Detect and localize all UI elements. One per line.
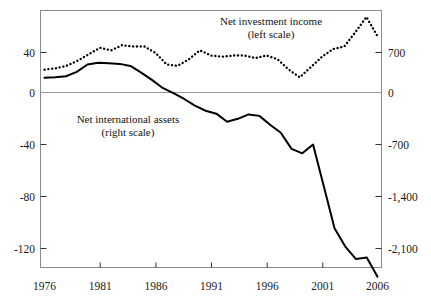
- chart-svg: 40 0 -40 -80 -120 700 0 -700 -1,400 -2,1…: [0, 0, 431, 303]
- annot-net-investment-income: Net investment income (left scale): [220, 15, 322, 41]
- annot-income-line2: (left scale): [248, 28, 295, 41]
- annot-assets-line2: (right scale): [102, 126, 155, 139]
- right-axis-labels: 700 0 -700 -1,400 -2,100: [388, 47, 418, 256]
- x-tick-label: 1991: [200, 280, 223, 292]
- x-tick-label: 2001: [311, 280, 334, 292]
- annot-net-international-assets: Net international assets (right scale): [77, 113, 180, 139]
- right-tick-label: -700: [388, 139, 409, 151]
- x-tick-label: 1996: [256, 280, 279, 292]
- left-tick-label: -40: [20, 139, 36, 151]
- left-tick-label: 40: [24, 47, 36, 59]
- x-axis-labels: 1976 1981 1986 1991 1996 2001 2006: [33, 280, 389, 292]
- right-axis-ticks: [376, 53, 382, 249]
- left-axis-ticks: [41, 53, 47, 249]
- right-tick-label: -1,400: [388, 191, 418, 204]
- annot-income-line1: Net investment income: [220, 15, 322, 27]
- annot-assets-line1: Net international assets: [77, 113, 180, 125]
- left-tick-label: -120: [14, 243, 35, 255]
- x-axis-ticks: [100, 263, 323, 268]
- x-tick-label: 1986: [144, 280, 167, 292]
- left-tick-label: 0: [29, 87, 35, 99]
- series-net-international-assets: [45, 63, 378, 277]
- plot-frame: [41, 11, 382, 268]
- left-axis-labels: 40 0 -40 -80 -120: [14, 47, 35, 255]
- x-tick-label: 2006: [366, 280, 389, 292]
- left-tick-label: -80: [20, 191, 36, 203]
- chart-figure: 40 0 -40 -80 -120 700 0 -700 -1,400 -2,1…: [0, 0, 431, 303]
- right-tick-label: 700: [388, 47, 406, 59]
- right-tick-label: 0: [388, 87, 394, 99]
- x-tick-label: 1981: [89, 280, 112, 292]
- right-tick-label: -2,100: [388, 243, 418, 256]
- series-net-investment-income: [45, 17, 378, 77]
- x-tick-label: 1976: [33, 280, 56, 292]
